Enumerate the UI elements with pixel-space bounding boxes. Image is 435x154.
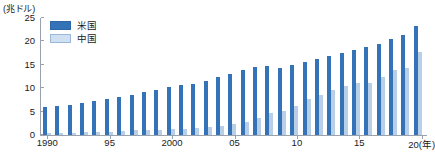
bar-cn [195,128,199,135]
bar-group [364,18,376,135]
bar-us [92,101,96,135]
bar-cn [208,127,212,135]
bar-us [105,99,109,135]
bar-group [179,18,191,135]
x-axis-tick-mark [422,136,423,139]
bar-group [204,18,216,135]
bar-group [105,18,117,135]
legend-item: 米国 [50,20,97,30]
bar-cn [307,99,311,135]
bar-us [179,85,183,135]
bar-us [43,107,47,135]
bar-cn [356,83,360,135]
bar-group [253,18,265,135]
legend-label: 中国 [77,31,97,45]
bar-cn [72,133,76,135]
x-axis-tick-mark [359,136,360,139]
bar-cn [282,111,286,135]
bar-group [265,18,277,135]
bar-cn [134,130,138,135]
bar-cn [47,133,51,135]
bar-us [55,106,59,135]
bar-group [142,18,154,135]
bar-group [167,18,179,135]
bar-cn [158,130,162,135]
legend-label: 米国 [77,18,97,32]
bar-group [315,18,327,135]
bar-us [142,92,146,135]
bar-group [401,18,413,135]
plot-area: 0510152025 [40,18,427,136]
bar-cn [269,113,273,135]
x-axis-tick-mark [172,136,173,139]
bar-cn [257,118,261,135]
bar-group [191,18,203,135]
bar-cn [344,86,348,135]
bar-group [377,18,389,135]
bar-group [241,18,253,135]
bar-cn [171,129,175,135]
x-axis-tick-mark [235,136,236,139]
x-axis-tick-label: 20(年) [408,137,435,151]
bar-groups [41,18,427,135]
legend-swatch-icon [50,34,71,43]
legend-item: 中国 [50,33,97,43]
bar-group [327,18,339,135]
x-axis-labels: 199095200005101520(年) [40,137,427,153]
bar-cn [245,122,249,135]
bar-cn [294,106,298,135]
bar-group [290,18,302,135]
bar-us [80,103,84,135]
bar-cn [418,52,422,135]
legend-swatch-icon [50,21,71,30]
bar-cn [232,124,236,135]
bar-cn [220,126,224,135]
bar-group [216,18,228,135]
bar-us [68,105,72,135]
bar-cn [368,83,372,135]
bar-group [414,18,426,135]
bar-group [117,18,129,135]
bar-cn [381,77,385,135]
bar-cn [393,70,397,135]
bar-group [389,18,401,135]
bar-cn [121,131,125,135]
bar-group [278,18,290,135]
bar-group [352,18,364,135]
bar-cn [59,133,63,135]
x-axis-tick-mark [110,136,111,139]
bar-us [130,95,134,135]
bar-us [117,97,121,135]
bar-cn [84,132,88,135]
x-axis-tick-mark [47,136,48,139]
bar-cn [146,130,150,135]
bar-group [154,18,166,135]
bar-us [154,90,158,135]
legend: 米国中国 [50,20,97,43]
bar-cn [96,132,100,135]
bar-group [228,18,240,135]
bar-cn [319,95,323,135]
bar-group [303,18,315,135]
bar-group [130,18,142,135]
bar-cn [109,132,113,135]
x-axis-tick-mark [297,136,298,139]
bar-cn [405,68,409,135]
bar-cn [331,90,335,135]
bar-cn [183,129,187,135]
bar-us [167,87,171,135]
bar-group [340,18,352,135]
